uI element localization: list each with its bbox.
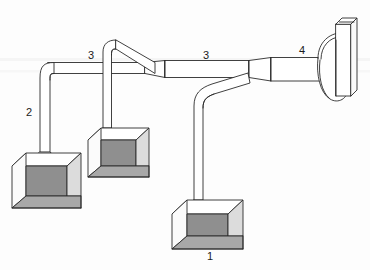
label-4: 4	[299, 44, 305, 56]
main-duct-segment-right	[165, 61, 249, 78]
enclosure-hood-3	[88, 128, 149, 177]
main-duct-segment-left	[48, 63, 145, 74]
fan-discharge-stack	[336, 18, 357, 96]
diagram-canvas: 1 2 3 3 4	[0, 0, 370, 270]
branch-duct-riser-2	[40, 63, 54, 153]
branch-duct-riser-3-middle	[103, 40, 116, 128]
label-3-right: 3	[203, 49, 209, 61]
branch-duct-riser-1	[194, 73, 250, 200]
label-3-left: 3	[88, 49, 94, 61]
label-2: 2	[26, 106, 32, 118]
enclosure-hood-2	[12, 153, 81, 208]
ventilation-system-diagram: 1 2 3 3 4	[0, 0, 370, 270]
label-1: 1	[207, 250, 213, 262]
main-duct-transition-b	[249, 58, 271, 82]
main-duct-segment-fan-inlet	[271, 58, 321, 82]
enclosure-hood-1	[172, 200, 243, 249]
